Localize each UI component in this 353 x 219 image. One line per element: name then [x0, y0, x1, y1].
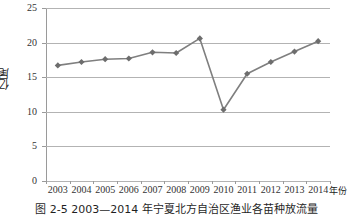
data-point-marker [102, 56, 108, 62]
line-chart: 亿尾 0510152025 20032004200520062007200820… [0, 0, 353, 200]
figure-caption: 图 2-5 2003—2014 年宁夏北方自治区渔业各苗种放流量 [0, 203, 353, 219]
data-point-marker [291, 48, 297, 54]
data-point-marker [55, 62, 61, 68]
figure-container: 亿尾 0510152025 20032004200520062007200820… [0, 0, 353, 219]
data-point-marker [126, 55, 132, 61]
series-line [58, 38, 318, 109]
series-markers [55, 35, 322, 112]
data-point-marker [268, 59, 274, 65]
series-layer [0, 0, 353, 200]
data-point-marker [315, 38, 321, 44]
data-point-marker [78, 59, 84, 65]
data-point-marker [149, 49, 155, 55]
